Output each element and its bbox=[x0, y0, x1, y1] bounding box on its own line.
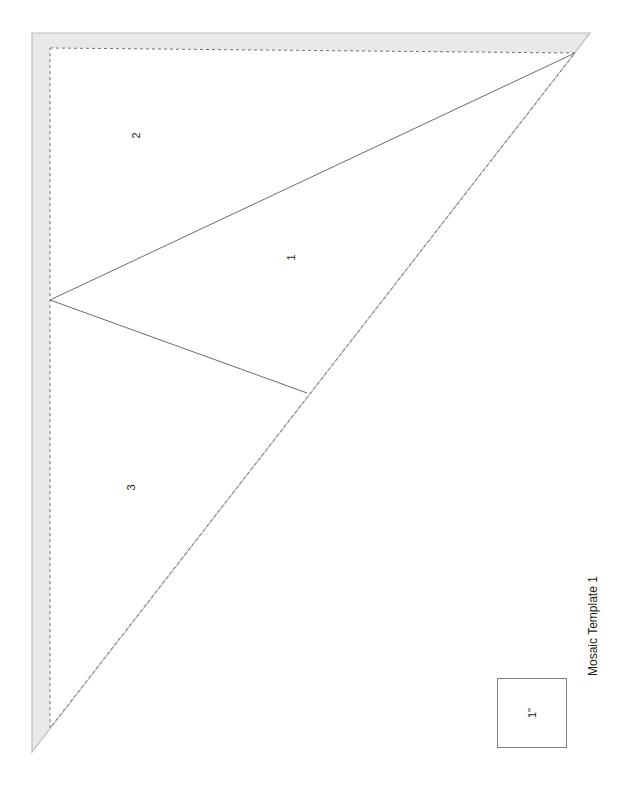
one-inch-square-label: 1" bbox=[527, 708, 538, 718]
sheet-caption: Mosaic Template 1 bbox=[585, 556, 601, 676]
piece-label-1: 1 bbox=[286, 248, 297, 268]
mosaic-template-drawing bbox=[0, 0, 618, 792]
piece-label-3: 3 bbox=[126, 478, 137, 498]
printable-sheet: 1 2 3 1" Mosaic Template 1 bbox=[0, 0, 618, 792]
template-interior bbox=[50, 48, 575, 728]
one-inch-reference-square: 1" bbox=[497, 678, 567, 748]
piece-label-2: 2 bbox=[131, 126, 142, 146]
